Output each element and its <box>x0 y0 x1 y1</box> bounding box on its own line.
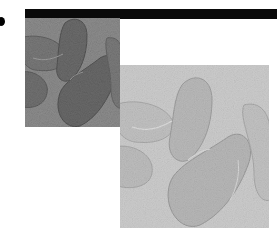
bullet-dot-icon <box>0 17 5 26</box>
dark-exposure-image <box>25 18 120 127</box>
fingers-light-image <box>120 65 269 228</box>
fingers-dark-image <box>25 18 120 127</box>
figure-stage <box>0 0 277 239</box>
light-exposure-image <box>120 65 269 228</box>
